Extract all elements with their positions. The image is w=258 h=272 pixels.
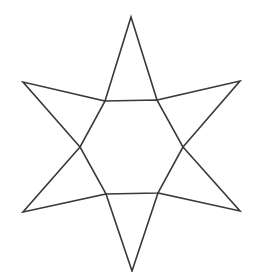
star-icon [0, 0, 258, 272]
star-diagram [0, 0, 258, 272]
star-outline [23, 17, 240, 271]
